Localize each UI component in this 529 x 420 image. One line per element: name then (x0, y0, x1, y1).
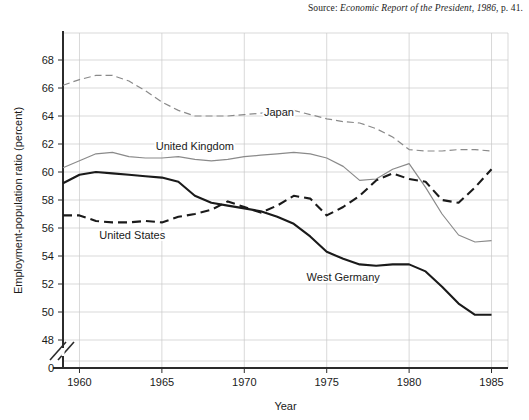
axis-lines (50, 31, 508, 368)
x-tick-label: 1985 (479, 376, 503, 388)
x-tick-label: 1965 (150, 376, 174, 388)
x-axis-ticks: 196019651970197519801985 (67, 368, 504, 388)
y-tick-label: 56 (42, 222, 54, 234)
plot-area: 48505254565860626466680 1960196519701975… (0, 0, 529, 420)
y-tick-label: 60 (42, 166, 54, 178)
y-origin-label: 0 (48, 362, 54, 374)
chart-figure: Source: Economic Report of the President… (0, 0, 529, 420)
x-axis-title: Year (274, 400, 297, 412)
x-tick-label: 1975 (314, 376, 338, 388)
y-axis-ticks: 48505254565860626466680 (42, 54, 63, 374)
series-line-west-germany (63, 172, 492, 315)
y-tick-label: 64 (42, 110, 54, 122)
x-tick-label: 1970 (232, 376, 256, 388)
y-tick-label: 48 (42, 334, 54, 346)
y-tick-label: 50 (42, 306, 54, 318)
series-label-west-germany: West Germany (307, 271, 381, 283)
series-label-united-kingdom: United Kingdom (156, 140, 234, 152)
y-tick-label: 54 (42, 250, 54, 262)
series-label-united-states: United States (99, 229, 166, 241)
x-tick-label: 1960 (67, 376, 91, 388)
employment-ratio-line-chart: 48505254565860626466680 1960196519701975… (0, 0, 529, 420)
axis-titles: Employment-population ratio (percent)Yea… (12, 107, 297, 412)
axis-break-mark (58, 342, 74, 360)
x-tick-label: 1980 (397, 376, 421, 388)
y-tick-label: 68 (42, 54, 54, 66)
y-tick-label: 58 (42, 194, 54, 206)
series-label-japan: Japan (264, 106, 294, 118)
y-axis-title: Employment-population ratio (percent) (12, 107, 24, 294)
y-tick-label: 52 (42, 278, 54, 290)
y-tick-label: 62 (42, 138, 54, 150)
y-tick-label: 66 (42, 82, 54, 94)
series-line-united-states (63, 169, 492, 222)
